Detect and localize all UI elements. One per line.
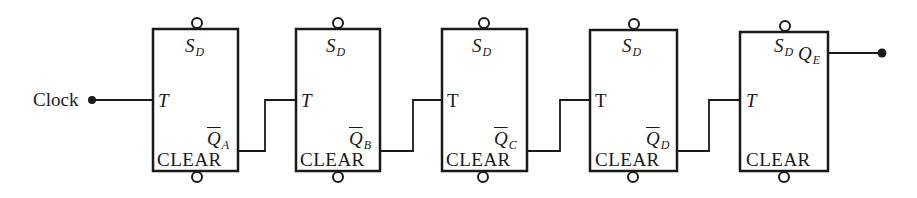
flipflop-d-clock-label: T xyxy=(595,91,607,110)
clear-bubble-c xyxy=(478,172,488,182)
flipflop-b-clock-label: T xyxy=(301,91,312,110)
wire-a-to-b xyxy=(238,100,296,151)
flipflop-d-output-label: QD xyxy=(646,129,669,148)
flipflop-c-clock-label: T xyxy=(447,91,459,110)
clear-bubble-a xyxy=(192,172,202,182)
set-bubble-c xyxy=(479,18,489,28)
flipflop-d-clear-label: CLEAR xyxy=(595,150,660,169)
flipflop-e-output-label: QE xyxy=(798,44,820,63)
output-terminal-dot xyxy=(878,49,887,58)
flipflop-b-set-label: SD xyxy=(326,36,345,55)
clear-bubble-e xyxy=(779,172,789,182)
clear-bubble-b xyxy=(333,172,343,182)
clock-terminal-dot xyxy=(88,96,96,104)
flipflop-c-output-label: QC xyxy=(494,129,517,148)
set-bubble-d xyxy=(629,19,639,29)
flipflop-e-clear-label: CLEAR xyxy=(746,150,811,169)
set-bubble-e xyxy=(780,21,790,31)
wire-b-to-c xyxy=(380,100,442,151)
flipflop-b-clear-label: CLEAR xyxy=(300,150,365,169)
flipflop-c-clear-label: CLEAR xyxy=(446,150,511,169)
flipflop-e-set-label: SD xyxy=(774,36,793,55)
flipflop-a-output-label: QA xyxy=(207,129,229,148)
set-bubble-a xyxy=(192,18,202,28)
flipflop-a-clear-label: CLEAR xyxy=(157,150,222,169)
flipflop-b-output-label: QB xyxy=(349,129,371,148)
clock-label: Clock xyxy=(33,90,78,109)
flipflop-a-clock-label: T xyxy=(158,91,169,110)
clear-bubble-d xyxy=(628,172,638,182)
wire-c-to-d xyxy=(527,100,590,151)
set-bubble-b xyxy=(333,18,343,28)
flipflop-e-clock-label: T xyxy=(746,91,757,110)
flipflop-a-set-label: SD xyxy=(185,36,204,55)
flipflop-c-set-label: SD xyxy=(472,36,491,55)
wire-d-to-e xyxy=(677,100,740,151)
flipflop-d-set-label: SD xyxy=(622,36,641,55)
